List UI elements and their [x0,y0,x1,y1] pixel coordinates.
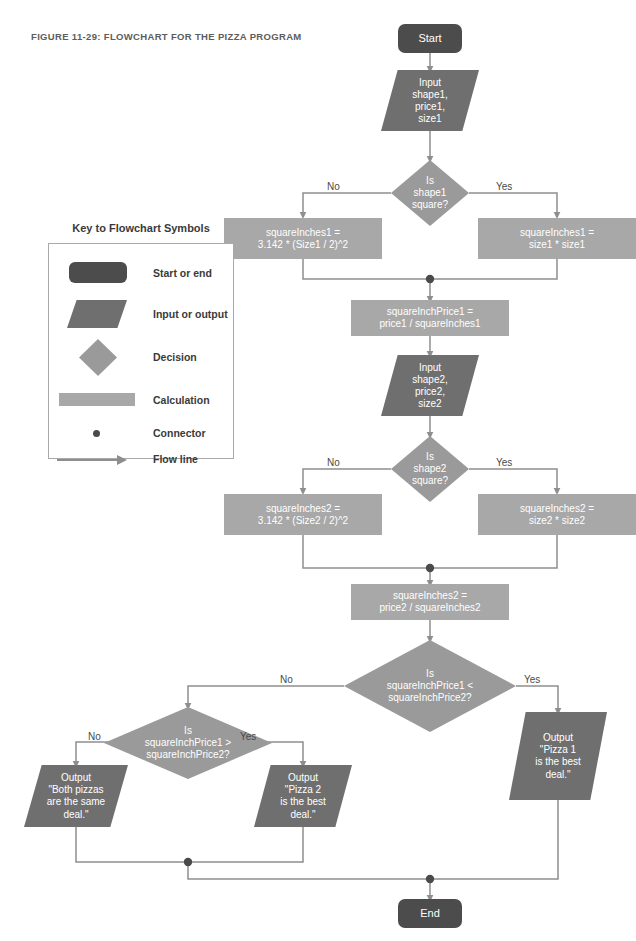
node-start-label: Start [398,32,462,45]
branch-label-decision3-yes: Yes [524,674,540,685]
legend-item-connector-label: Connector [153,427,206,439]
input-output-icon [63,295,135,333]
node-input-pizza2[interactable]: Inputshape2,price2,size2 [381,355,479,416]
node-calc-square-area2-label: squareInches2 =size2 * size2 [478,502,636,526]
branch-label-decision2-yes: Yes [496,457,512,468]
legend-item-start-end-label: Start or end [153,267,212,279]
node-end-label: End [398,907,462,920]
node-input-pizza1[interactable]: Inputshape1,price1,size1 [381,70,479,131]
node-output-pizza1-best-label: Output"Pizza 1is the bestdeal." [509,732,607,781]
legend-item-flow-line: Flow line [49,440,233,478]
start-end-icon [63,254,135,292]
node-output-pizza2-best-label: Output"Pizza 2is the bestdeal." [254,772,352,821]
node-decision-price1-less-than-price2-label: IssquareInchPrice1 <squareInchPrice2? [344,668,516,705]
legend-title: Key to Flowchart Symbols [48,222,234,234]
node-calc-square-area2[interactable]: squareInches2 =size2 * size2 [478,494,636,535]
node-input-pizza1-label: Inputshape1,price1,size1 [381,76,479,125]
node-end[interactable]: End [398,899,462,928]
legend: Key to Flowchart Symbols Start or end In… [48,222,234,459]
branch-label-decision2-no: No [327,457,340,468]
branch-label-decision4-yes: Yes [240,731,256,742]
node-start[interactable]: Start [398,24,462,53]
node-calc-price-per-inch1-label: squareInchPrice1 =price1 / squareInches1 [351,306,509,330]
node-output-both-same-deal-label: Output"Both pizzasare the samedeal." [24,772,128,821]
node-calc-square-area1-label: squareInches1 =size1 * size1 [478,226,636,250]
legend-item-start-end: Start or end [49,254,233,292]
flow-line-icon [63,440,135,478]
legend-item-input-output-label: Input or output [153,308,228,320]
branch-label-decision1-no: No [327,181,340,192]
connector-dot [184,858,192,866]
node-calc-price-per-inch2-label: squareInches2 =price2 / squareInches2 [351,590,509,614]
decision-icon [63,338,135,376]
legend-item-input-output: Input or output [49,295,233,333]
node-calc-circle-area2[interactable]: squareInches2 =3.142 * (Size2 / 2)^2 [224,494,382,535]
connector-dot [426,275,434,283]
node-output-pizza2-best[interactable]: Output"Pizza 2is the bestdeal." [254,765,352,827]
connector-dot [426,564,434,572]
legend-item-calculation-label: Calculation [153,394,210,406]
connector-dot [426,875,434,883]
legend-item-decision: Decision [49,338,233,376]
branch-label-decision3-no: No [280,674,293,685]
node-calc-square-area1[interactable]: squareInches1 =size1 * size1 [478,218,636,259]
node-calc-circle-area1[interactable]: squareInches1 =3.142 * (Size1 / 2)^2 [224,218,382,259]
node-calc-price-per-inch2[interactable]: squareInches2 =price2 / squareInches2 [351,584,509,620]
node-output-pizza1-best[interactable]: Output"Pizza 1is the bestdeal." [509,712,607,800]
legend-item-decision-label: Decision [153,351,197,363]
node-calc-circle-area2-label: squareInches2 =3.142 * (Size2 / 2)^2 [224,502,382,526]
legend-item-flow-line-label: Flow line [153,453,198,465]
branch-label-decision4-no: No [88,731,101,742]
node-calc-circle-area1-label: squareInches1 =3.142 * (Size1 / 2)^2 [224,226,382,250]
node-calc-price-per-inch1[interactable]: squareInchPrice1 =price1 / squareInches1 [351,300,509,336]
legend-box: Start or end Input or output Decision Ca… [48,243,234,459]
node-input-pizza2-label: Inputshape2,price2,size2 [381,361,479,410]
node-output-both-same-deal[interactable]: Output"Both pizzasare the samedeal." [24,765,128,827]
branch-label-decision1-yes: Yes [496,181,512,192]
